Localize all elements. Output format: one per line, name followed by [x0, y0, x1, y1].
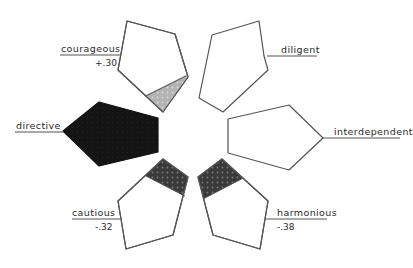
- label-diligent: diligent: [281, 44, 320, 55]
- petal-courageous: [60, 21, 195, 120]
- label-harmonious: harmonious: [277, 207, 337, 218]
- petal-directive: [15, 102, 158, 166]
- value-cautious: -.32: [95, 222, 113, 232]
- petal-cautious: [72, 150, 200, 249]
- petal-harmonious: [190, 150, 327, 249]
- label-cautious: cautious: [72, 207, 115, 218]
- value-courageous: +.30: [95, 58, 117, 68]
- petal-interdependent: [228, 105, 400, 170]
- petal-diligent: [199, 21, 317, 112]
- label-interdependent: interdependent: [334, 126, 413, 137]
- label-directive: directive: [16, 120, 61, 131]
- value-harmonious: -.38: [277, 222, 295, 232]
- label-courageous: courageous: [61, 43, 120, 54]
- trait-profile-diagram: courageous +.30 diligent interdependent …: [0, 0, 413, 268]
